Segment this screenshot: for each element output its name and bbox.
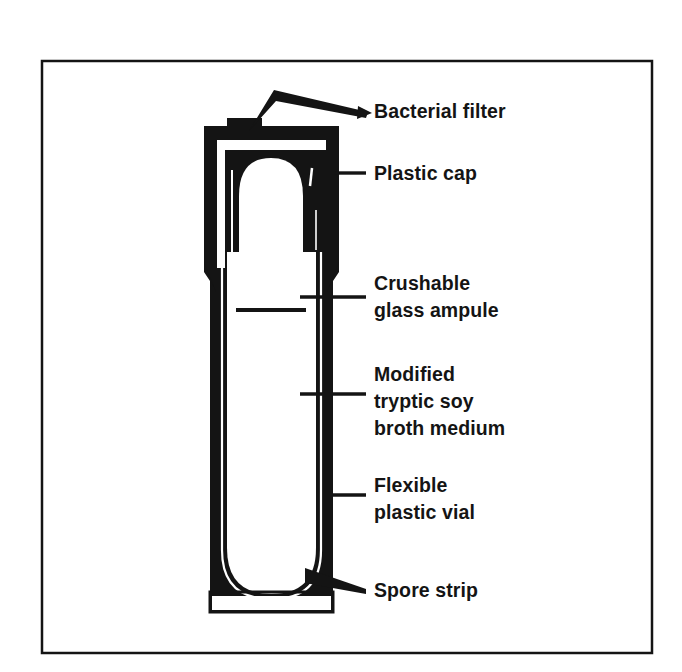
device-artwork	[204, 118, 339, 612]
ampule	[239, 158, 303, 310]
callout-broth-medium-line2: tryptic soy	[374, 390, 474, 412]
callout-crushable-glass-ampule-line2: glass ampule	[374, 299, 499, 321]
canvas-background	[0, 0, 682, 672]
biological-indicator-diagram: Bacterial filter Plastic cap Crushable g…	[0, 0, 682, 672]
callout-crushable-glass-ampule-line1: Crushable	[374, 272, 470, 294]
callout-plastic-cap: Plastic cap	[374, 162, 477, 184]
figure-root: Bacterial filter Plastic cap Crushable g…	[0, 0, 682, 672]
callout-flexible-plastic-vial-line1: Flexible	[374, 474, 447, 496]
callout-flexible-plastic-vial-line2: plastic vial	[374, 501, 475, 523]
callout-bacterial-filter: Bacterial filter	[374, 100, 506, 122]
callout-broth-medium-line1: Modified	[374, 363, 455, 385]
callout-spore-strip: Spore strip	[374, 579, 478, 601]
callout-broth-medium-line3: broth medium	[374, 417, 505, 439]
vial-base-gap	[212, 596, 331, 610]
